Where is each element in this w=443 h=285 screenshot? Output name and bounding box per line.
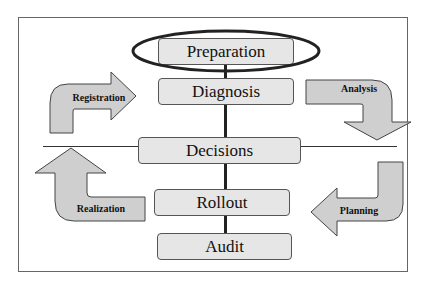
- diagram-overlay: Registration Analysis Planning Realizati…: [0, 0, 443, 285]
- planning-arrow-icon: Planning: [311, 162, 403, 236]
- highlight-ellipse-icon: [133, 31, 319, 71]
- realization-arrow-icon: Realization: [35, 148, 145, 221]
- registration-arrow-icon: Registration: [50, 72, 136, 133]
- registration-label: Registration: [73, 92, 126, 103]
- analysis-arrow-icon: Analysis: [306, 80, 411, 140]
- realization-label: Realization: [77, 203, 126, 214]
- planning-label: Planning: [340, 205, 378, 216]
- analysis-label: Analysis: [341, 83, 377, 94]
